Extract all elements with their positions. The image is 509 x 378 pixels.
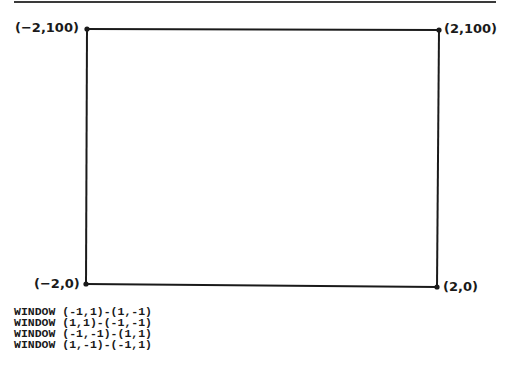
- rect-bottom-edge: [86, 284, 437, 287]
- corner-dot-top-right: [436, 27, 441, 32]
- rect-left-edge: [86, 29, 87, 284]
- corner-label-top-left: (−2,100): [15, 20, 79, 36]
- corner-label-bottom-right: (2,0): [443, 279, 478, 295]
- window-code-listing: WINDOW (-1,1)-(1,-1) WINDOW (1,1)-(-1,-1…: [14, 306, 152, 350]
- code-line: WINDOW (1,-1)-(-1,1): [14, 339, 152, 350]
- rectangle-frame: [86, 29, 439, 287]
- rect-right-edge: [437, 30, 439, 287]
- corner-label-top-right: (2,100): [444, 21, 497, 37]
- rect-top-edge: [87, 29, 439, 30]
- corner-dot-bottom-right: [434, 284, 439, 289]
- corner-dot-bottom-left: [83, 281, 88, 286]
- corner-dot-top-left: [84, 26, 89, 31]
- corner-label-bottom-left: (−2,0): [34, 276, 80, 292]
